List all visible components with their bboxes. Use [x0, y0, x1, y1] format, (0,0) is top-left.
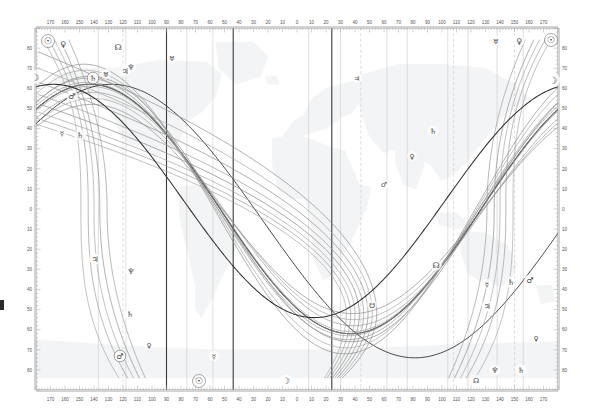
planet-glyph-mercury: ☿	[485, 281, 489, 289]
planet-glyph-mercury: ☿	[212, 353, 216, 361]
planet-marker-moon[interactable]: ☽	[28, 70, 42, 84]
astrocartography-figure: 1701601501401301201101009080706050403020…	[0, 0, 593, 418]
planet-marker-mercury[interactable]: ☿	[57, 128, 67, 138]
x-axis-label-top: 40	[352, 20, 358, 25]
planet-marker-mars[interactable]: ♂	[524, 274, 535, 285]
y-axis-label-left: 60	[27, 327, 33, 332]
y-axis-label-left: 70	[27, 348, 33, 353]
planet-marker-moon[interactable]: ☽	[546, 73, 560, 87]
planet-marker-sun[interactable]: ☉	[193, 375, 206, 388]
planet-glyph-saturn: ♄	[126, 310, 133, 319]
planet-marker-saturn[interactable]: ♄	[87, 72, 99, 84]
landmass	[36, 340, 558, 378]
x-axis-label-top: 160	[525, 20, 533, 25]
x-axis-label-bottom: 100	[438, 397, 446, 402]
x-axis-label-bottom: 90	[164, 397, 170, 402]
planet-glyph-venus: ♀	[516, 37, 522, 46]
planet-marker-venus[interactable]: ♀	[513, 35, 524, 46]
planet-glyph-uranus: ♅	[169, 55, 175, 63]
x-axis-label-top: 60	[207, 20, 213, 25]
x-axis-label-bottom: 10	[309, 397, 315, 402]
planet-marker-jupiter[interactable]: ♃	[119, 65, 130, 76]
planet-marker-south_node[interactable]: ☋	[367, 300, 377, 310]
planet-marker-mercury[interactable]: ☿	[482, 279, 492, 289]
y-axis-label-right: 20	[562, 247, 568, 252]
planet-glyph-sun: ☉	[195, 376, 203, 386]
y-axis-label-right: 70	[562, 66, 568, 71]
x-axis-label-top: 170	[47, 20, 55, 25]
planet-marker-mars[interactable]: ♂	[379, 179, 389, 189]
planet-marker-uranus[interactable]: ♅	[491, 36, 501, 46]
x-axis-label-bottom: 120	[119, 397, 127, 402]
x-axis-label-top: 160	[61, 20, 69, 25]
planet-marker-saturn[interactable]: ♄	[124, 308, 135, 319]
planet-marker-mars[interactable]: ♂	[66, 90, 77, 101]
planet-marker-neptune[interactable]: ♆	[125, 265, 136, 276]
planet-marker-mars[interactable]: ♂	[114, 350, 126, 362]
planet-glyph-neptune: ♆	[491, 366, 498, 375]
planet-glyph-north_node: ☊	[114, 43, 121, 52]
y-axis-label-left: 30	[27, 267, 33, 272]
planet-marker-saturn[interactable]: ♄	[74, 129, 85, 140]
x-axis-label-top: 140	[496, 20, 504, 25]
planet-glyph-jupiter: ♃	[121, 67, 128, 76]
planet-marker-jupiter[interactable]: ♃	[481, 300, 492, 311]
x-axis-label-bottom: 170	[47, 397, 55, 402]
y-axis-label-left: 70	[27, 66, 33, 71]
planet-glyph-jupiter: ♃	[354, 75, 360, 83]
y-axis-label-right: 60	[562, 327, 568, 332]
left-margin-marker	[0, 300, 4, 310]
planet-marker-saturn[interactable]: ♄	[427, 125, 438, 136]
x-axis-label-top: 20	[265, 20, 271, 25]
planet-marker-jupiter[interactable]: ♃	[89, 253, 100, 264]
planet-marker-north_node[interactable]: ☊	[112, 41, 123, 52]
y-axis-label-left: 40	[27, 126, 33, 131]
x-axis-label-bottom: 120	[467, 397, 475, 402]
x-axis-label-bottom: 50	[367, 397, 373, 402]
planet-marker-saturn[interactable]: ♄	[515, 364, 526, 375]
planet-marker-uranus[interactable]: ♅	[167, 53, 177, 63]
x-axis-label-top: 10	[309, 20, 315, 25]
y-axis-label-right: 10	[562, 227, 568, 232]
planet-marker-mercury[interactable]: ☿	[209, 351, 219, 361]
x-axis-label-top: 130	[105, 20, 113, 25]
x-axis-label-bottom: 140	[496, 397, 504, 402]
landmass	[216, 42, 268, 84]
planet-glyph-venus: ♀	[60, 40, 66, 49]
y-axis-label-right: 50	[562, 106, 568, 111]
x-axis-label-bottom: 80	[410, 397, 416, 402]
landmass	[536, 285, 555, 303]
y-axis-label-left: 50	[27, 106, 33, 111]
y-axis-label-left: 30	[27, 146, 33, 151]
x-axis-label-top: 70	[396, 20, 402, 25]
y-axis-label-left: 40	[27, 287, 33, 292]
planet-glyph-venus: ♀	[146, 342, 151, 350]
x-axis-label-top: 90	[425, 20, 431, 25]
planet-marker-moon[interactable]: ☽	[280, 375, 293, 388]
planet-marker-venus[interactable]: ♀	[57, 38, 68, 49]
planet-marker-venus[interactable]: ♀	[407, 151, 417, 161]
planet-marker-venus[interactable]: ♀	[144, 340, 154, 350]
x-axis-label-top: 120	[119, 20, 127, 25]
planet-marker-venus[interactable]: ♀	[531, 333, 541, 343]
planet-glyph-north_node: ☊	[432, 261, 439, 270]
x-axis-label-bottom: 170	[540, 397, 548, 402]
planet-marker-north_node[interactable]: ☊	[430, 259, 441, 270]
y-axis-label-left: 10	[27, 227, 33, 232]
planet-marker-uranus[interactable]: ♅	[101, 69, 111, 79]
x-axis-label-bottom: 160	[61, 397, 69, 402]
x-axis-label-bottom: 40	[352, 397, 358, 402]
planet-marker-saturn[interactable]: ♄	[505, 276, 516, 287]
planet-glyph-saturn: ♄	[429, 127, 436, 136]
x-axis-label-bottom: 130	[482, 397, 490, 402]
planet-marker-jupiter[interactable]: ♃	[352, 73, 362, 83]
y-axis-label-right: 30	[562, 267, 568, 272]
y-axis-label-right: 30	[562, 146, 568, 151]
x-axis-label-bottom: 40	[236, 397, 242, 402]
x-axis-label-top: 130	[482, 20, 490, 25]
planet-marker-sun[interactable]: ☉	[42, 35, 55, 48]
x-axis-label-bottom: 80	[178, 397, 184, 402]
planet-marker-north_node[interactable]: ☊	[471, 375, 481, 385]
planet-marker-neptune[interactable]: ♆	[489, 364, 500, 375]
planet-marker-sun[interactable]: ☉	[545, 34, 558, 47]
